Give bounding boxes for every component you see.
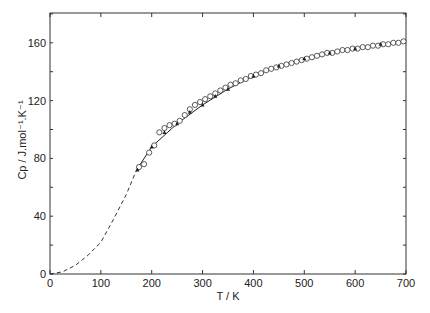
x-tick-label: 0 [47, 277, 53, 289]
x-axis-ticks [50, 13, 406, 274]
data-point-circle [182, 112, 187, 117]
data-point-circle [147, 150, 152, 155]
data-point-circle [258, 71, 263, 76]
data-point-circle [162, 125, 167, 130]
x-tick-label: 400 [244, 277, 262, 289]
x-tick-label: 300 [193, 277, 211, 289]
data-point-circle [264, 68, 269, 73]
y-tick-label: 160 [28, 37, 46, 49]
x-tick-label: 200 [143, 277, 161, 289]
y-tick-label: 80 [34, 152, 46, 164]
data-point-circle [309, 55, 314, 60]
y-axis-label: Cp / J.mol⁻¹.K⁻¹ [16, 100, 28, 180]
heat-capacity-chart: 0100200300400500600700 04080120160 T / K… [0, 0, 430, 313]
data-point-circle [396, 40, 401, 45]
data-point-circle [386, 42, 391, 47]
data-point-circle [365, 45, 370, 50]
y-tick-label: 120 [28, 95, 46, 107]
y-tick-label: 0 [40, 268, 46, 280]
data-point-circle [269, 66, 274, 71]
data-point-circle [233, 81, 238, 86]
data-point-circle [289, 60, 294, 65]
y-axis-tick-labels: 04080120160 [28, 37, 46, 280]
data-point-circle [294, 59, 299, 64]
data-point-circle [167, 123, 172, 128]
data-point-filled [162, 130, 166, 134]
data-point-circle [238, 78, 243, 83]
plot-frame [50, 13, 406, 274]
data-point-circle [401, 39, 406, 44]
data-point-circle [208, 94, 213, 99]
x-axis-label: T / K [216, 290, 240, 302]
data-point-circle [335, 49, 340, 54]
data-point-circle [284, 62, 289, 67]
data-point-circle [319, 52, 324, 57]
data-point-circle [360, 45, 365, 50]
data-point-circle [314, 53, 319, 58]
data-point-circle [203, 97, 208, 102]
x-tick-label: 600 [346, 277, 364, 289]
data-point-circle [345, 47, 350, 52]
filled-point-markers [135, 42, 382, 172]
data-point-circle [157, 130, 162, 135]
y-axis-ticks [50, 14, 406, 274]
data-point-circle [340, 47, 345, 52]
x-tick-label: 500 [295, 277, 313, 289]
x-tick-label: 100 [92, 277, 110, 289]
x-axis-tick-labels: 0100200300400500600700 [47, 277, 415, 289]
data-point-circle [218, 88, 223, 93]
data-point-circle [243, 76, 248, 81]
data-point-circle [192, 102, 197, 107]
extrapolation-dashed-line [50, 170, 137, 274]
data-point-circle [228, 82, 233, 87]
data-point-circle [370, 43, 375, 48]
x-tick-label: 700 [397, 277, 415, 289]
data-point-circle [197, 99, 202, 104]
data-point-circle [141, 162, 146, 167]
data-point-circle [177, 118, 182, 123]
fit-solid-line [137, 41, 407, 170]
data-point-circle [391, 40, 396, 45]
open-circle-markers [136, 39, 406, 170]
y-tick-label: 40 [34, 210, 46, 222]
